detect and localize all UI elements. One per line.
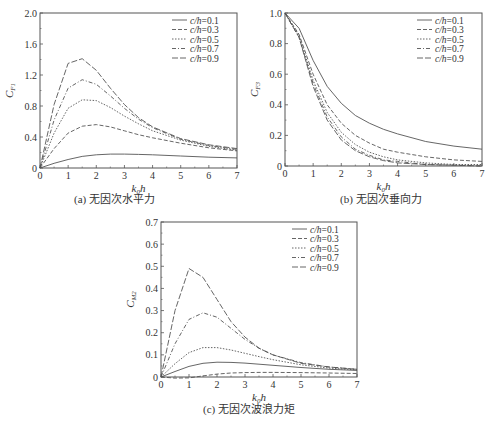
legend-label: c/h=0.7 (190, 44, 219, 54)
legend-label: c/h=0.9 (310, 263, 339, 273)
chart-b: 0123456700.20.40.60.81.0k0hCF3c/h=0.1c/h… (248, 8, 485, 195)
y-tick-label: 0.7 (146, 217, 159, 228)
legend-label: c/h=0.9 (190, 54, 219, 64)
series-line (40, 125, 237, 168)
y-axis-label: CF1 (3, 83, 17, 98)
x-tick-label: 5 (299, 379, 304, 390)
x-tick-label: 4 (150, 170, 155, 181)
y-tick-label: 0.4 (146, 283, 159, 294)
caption-c: (c) 无因次波浪力矩 (203, 400, 295, 416)
x-tick-label: 2 (215, 379, 220, 390)
y-axis-label: CF3 (248, 81, 262, 97)
legend-label: c/h=0.7 (310, 253, 339, 263)
y-tick-label: 0.8 (25, 101, 38, 112)
y-axis-label: CM2 (124, 291, 138, 308)
x-tick-label: 6 (206, 170, 211, 181)
x-tick-label: 1 (311, 168, 316, 179)
figure-canvas: 0123456700.40.81.21.62.0k0hCF1c/h=0.1c/h… (0, 0, 489, 424)
x-tick-label: 0 (38, 170, 43, 181)
y-tick-label: 0.2 (270, 130, 283, 141)
legend-label: c/h=0.9 (435, 54, 464, 64)
x-tick-label: 5 (423, 168, 428, 179)
series-line (161, 269, 357, 378)
x-tick-label: 4 (395, 168, 400, 179)
y-tick-label: 0.1 (146, 349, 159, 360)
y-tick-label: 0.6 (146, 239, 159, 250)
legend-label: c/h=0.3 (435, 25, 464, 35)
y-tick-label: 1.0 (270, 8, 283, 19)
y-tick-label: 0.4 (270, 99, 283, 110)
series-line (40, 59, 237, 168)
legend-label: c/h=0.3 (310, 234, 339, 244)
chart-c: 0123456700.10.20.30.40.50.60.7k0hCM2c/h=… (124, 217, 360, 406)
y-tick-label: 0.4 (25, 132, 38, 143)
y-tick-label: 0 (277, 161, 282, 172)
x-tick-label: 2 (94, 170, 99, 181)
y-tick-label: 0.6 (270, 69, 283, 80)
legend-label: c/h=0.3 (190, 25, 219, 35)
y-tick-label: 0.3 (146, 305, 159, 316)
x-tick-label: 6 (327, 379, 332, 390)
y-tick-label: 1.2 (25, 70, 38, 81)
chart-a: 0123456700.40.81.21.62.0k0hCF1c/h=0.1c/h… (3, 8, 240, 197)
legend-label: c/h=0.1 (435, 16, 464, 26)
x-tick-label: 4 (271, 379, 276, 390)
x-tick-label: 7 (480, 168, 485, 179)
y-tick-label: 0.2 (146, 327, 159, 338)
y-tick-label: 0 (32, 163, 37, 174)
caption-a: (a) 无因次水平力 (74, 190, 155, 206)
series-line (161, 362, 357, 377)
y-tick-label: 2.0 (25, 8, 38, 19)
x-tick-label: 3 (243, 379, 248, 390)
legend-label: c/h=0.5 (190, 35, 219, 45)
x-tick-label: 1 (187, 379, 192, 390)
legend-label: c/h=0.5 (435, 35, 464, 45)
x-tick-label: 0 (283, 168, 288, 179)
legend-label: c/h=0.1 (310, 225, 339, 235)
x-tick-label: 5 (178, 170, 183, 181)
y-tick-label: 0.5 (146, 261, 159, 272)
legend-label: c/h=0.1 (190, 16, 219, 26)
x-tick-label: 3 (122, 170, 127, 181)
y-tick-label: 0.8 (270, 38, 283, 49)
series-line (161, 313, 357, 377)
series-line (40, 154, 237, 168)
legend-label: c/h=0.5 (310, 244, 339, 254)
x-tick-label: 1 (66, 170, 71, 181)
x-tick-label: 6 (451, 168, 456, 179)
x-tick-label: 2 (339, 168, 344, 179)
legend-label: c/h=0.7 (435, 44, 464, 54)
x-tick-label: 3 (367, 168, 372, 179)
x-tick-label: 0 (159, 379, 164, 390)
y-tick-label: 1.6 (25, 39, 38, 50)
x-tick-label: 7 (235, 170, 240, 181)
y-tick-label: 0 (153, 372, 158, 383)
series-line (40, 100, 237, 168)
x-tick-label: 7 (355, 379, 360, 390)
caption-b: (b) 无因次垂向力 (340, 190, 422, 206)
